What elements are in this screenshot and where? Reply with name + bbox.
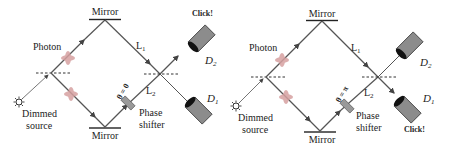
photon-label: Photon [249,42,277,53]
path-l1 [105,20,150,64]
detector-d2-label: D2 [204,54,217,68]
panel-left: Mirror Mirror Photon Dimmed source L1 L2… [14,6,219,141]
phase-shifter-label-2: shifter [356,122,382,133]
input-beam [22,75,48,99]
mirror-top-label: Mirror [309,8,336,19]
detector-d2-label: D2 [419,56,432,70]
output-beam-d1 [378,77,394,93]
mirror-bottom-label: Mirror [309,134,336,145]
panel-right: Mirror Mirror Photon Dimmed source L1 L2… [231,8,435,145]
path-l2 [105,105,127,127]
photon-blob-upper [61,51,75,65]
source-label-2: source [26,120,53,131]
phase-value-label: θ = π [334,84,351,104]
source-label-2: source [242,124,269,135]
output-line-d1 [160,74,188,102]
mirror-bottom-label: Mirror [92,130,119,141]
path-l2-label: L2 [364,87,374,100]
detector-d1-label: D1 [206,92,218,106]
photon-label: Photon [33,41,61,52]
phase-value-label: θ = 0 [115,82,131,101]
detector-d2 [186,25,215,54]
click-label-d1: Click! [404,125,425,134]
path-l2-label: L2 [146,85,156,98]
output-line-d2 [378,55,400,77]
detector-d1-label: D1 [422,92,434,106]
path-l1 [322,21,368,67]
detector-d1 [392,94,421,123]
mirror-top-label: Mirror [92,6,119,17]
path-l2 [320,111,340,131]
photon-blob-upper [275,53,289,67]
phase-shifter-label-1: Phase [139,107,163,118]
interferometer-diagram: Mirror Mirror Photon Dimmed source L1 L2… [0,0,450,154]
input-beam [239,79,263,103]
output-beam-d2 [160,56,178,74]
source-label-1: Dimmed [22,108,57,119]
source-label-1: Dimmed [238,112,273,123]
click-label-d2: Click! [192,9,213,18]
path-l1-label: L1 [351,42,361,55]
phase-shifter-label-1: Phase [356,110,380,121]
photon-blob-lower [64,87,78,101]
phase-shifter-label-2: shifter [139,119,165,130]
